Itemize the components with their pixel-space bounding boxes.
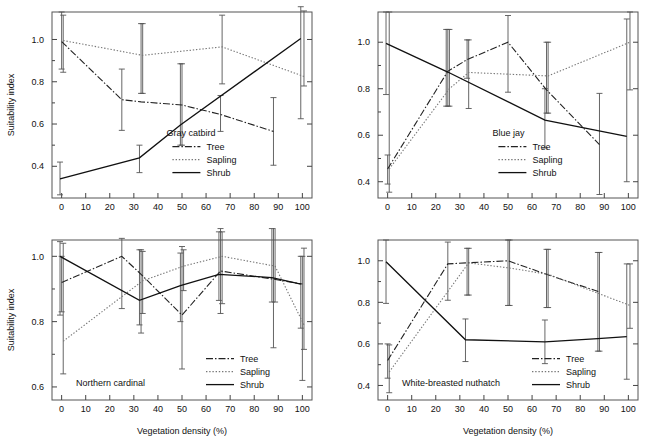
y-tick-label: 0.6 xyxy=(31,119,44,129)
x-tick-label: 90 xyxy=(599,404,609,414)
x-tick-label: 40 xyxy=(479,404,489,414)
error-bar xyxy=(383,240,389,303)
x-tick-label: 40 xyxy=(153,202,163,212)
x-tick-label: 30 xyxy=(455,404,465,414)
y-tick-label: 1.0 xyxy=(357,256,370,266)
x-tick-label: 50 xyxy=(503,404,513,414)
error-bar xyxy=(545,42,551,113)
error-bar xyxy=(443,29,449,106)
y-tick-label: 0.8 xyxy=(357,298,370,308)
panel-white-breasted-nuthatch: 0.40.60.81.00102030405060708090100Vegeta… xyxy=(326,228,652,447)
x-tick-label: 40 xyxy=(153,404,163,414)
x-tick-label: 20 xyxy=(431,404,441,414)
x-tick-label: 20 xyxy=(105,404,115,414)
error-bar xyxy=(446,29,452,106)
legend: TreeSaplingShrub xyxy=(172,142,236,178)
legend-label-shrub: Shrub xyxy=(240,380,264,390)
legend-label-shrub: Shrub xyxy=(532,168,556,178)
error-bar xyxy=(60,243,66,374)
x-tick-label: 80 xyxy=(249,202,259,212)
x-tick-label: 70 xyxy=(225,202,235,212)
y-tick-label: 0.4 xyxy=(357,177,370,187)
panel-title: White-breasted nuthatch xyxy=(402,378,500,388)
error-bar xyxy=(59,256,65,312)
y-tick-label: 0.6 xyxy=(31,382,44,392)
error-bar xyxy=(624,19,630,182)
x-tick-label: 20 xyxy=(105,202,115,212)
error-bar xyxy=(383,12,389,95)
error-bar xyxy=(627,264,633,328)
x-tick-label: 50 xyxy=(177,202,187,212)
legend-label-shrub: Shrub xyxy=(566,380,590,390)
error-bar xyxy=(138,250,144,333)
error-bar xyxy=(301,11,307,86)
error-bar xyxy=(385,344,391,378)
y-tick-label: 1.0 xyxy=(31,252,44,262)
x-tick-label: 70 xyxy=(551,202,561,212)
x-tick-label: 80 xyxy=(575,202,585,212)
error-bar xyxy=(57,242,63,315)
error-bar xyxy=(272,228,278,302)
error-bar xyxy=(119,69,125,130)
y-tick-label: 1.0 xyxy=(31,35,44,45)
x-tick-label: 80 xyxy=(249,404,259,414)
chart-bottom-right: 0.40.60.81.00102030405060708090100Vegeta… xyxy=(326,228,652,447)
error-bar xyxy=(544,249,550,307)
legend: TreeSaplingShrub xyxy=(498,142,562,178)
error-bar xyxy=(219,15,225,84)
x-tick-label: 90 xyxy=(273,404,283,414)
y-tick-label: 0.8 xyxy=(357,84,370,94)
x-tick-label: 90 xyxy=(599,202,609,212)
error-bar xyxy=(140,24,146,94)
y-tick-label: 0.6 xyxy=(357,339,370,349)
x-tick-label: 100 xyxy=(295,404,310,414)
x-tick-label: 30 xyxy=(455,202,465,212)
legend: TreeSaplingShrub xyxy=(206,354,270,390)
chart-top-right: 0.40.60.81.00102030405060708090100Blue j… xyxy=(326,0,652,228)
legend-label-sapling: Sapling xyxy=(566,367,596,377)
legend-label-shrub: Shrub xyxy=(206,168,230,178)
multi-panel-figure: 0.40.60.81.00102030405060708090100Suitab… xyxy=(0,0,652,447)
error-bar xyxy=(466,248,472,295)
x-tick-label: 40 xyxy=(479,202,489,212)
legend-label-sapling: Sapling xyxy=(206,155,236,165)
chart-bottom-left: 0.60.81.00102030405060708090100Suitabili… xyxy=(0,228,326,447)
series-shrub xyxy=(386,43,627,136)
error-bar xyxy=(270,98,276,166)
error-bar xyxy=(138,24,144,94)
chart-top-left: 0.40.60.81.00102030405060708090100Suitab… xyxy=(0,0,326,228)
x-tick-label: 0 xyxy=(385,404,390,414)
y-tick-label: 1.0 xyxy=(357,37,370,47)
x-axis-label: Vegetation density (%) xyxy=(137,426,227,436)
x-tick-label: 0 xyxy=(385,202,390,212)
y-tick-label: 0.8 xyxy=(31,77,44,87)
series-shrub xyxy=(386,262,627,342)
panel-northern-cardinal: 0.60.81.00102030405060708090100Suitabili… xyxy=(0,228,326,447)
x-tick-label: 20 xyxy=(431,202,441,212)
panel-blue-jay: 0.40.60.81.00102030405060708090100Blue j… xyxy=(326,0,652,228)
error-bar xyxy=(386,12,392,192)
x-tick-label: 70 xyxy=(551,404,561,414)
panel-title: Blue jay xyxy=(492,128,525,138)
x-tick-label: 10 xyxy=(81,202,91,212)
error-bar xyxy=(595,252,601,351)
y-tick-label: 0.6 xyxy=(357,130,370,140)
error-bar xyxy=(505,15,511,92)
error-bar xyxy=(298,7,304,119)
series-tree xyxy=(62,42,274,132)
x-tick-label: 10 xyxy=(407,404,417,414)
error-bar xyxy=(545,249,551,307)
error-bar xyxy=(216,232,222,301)
legend-label-tree: Tree xyxy=(532,142,550,152)
x-tick-label: 70 xyxy=(225,404,235,414)
error-bar xyxy=(301,248,307,349)
x-tick-label: 60 xyxy=(527,404,537,414)
x-tick-label: 100 xyxy=(295,202,310,212)
y-axis-label: Suitability index xyxy=(6,73,16,136)
error-bar xyxy=(596,252,602,351)
x-tick-label: 80 xyxy=(575,404,585,414)
legend-label-tree: Tree xyxy=(206,142,224,152)
x-tick-label: 10 xyxy=(407,202,417,212)
error-bar xyxy=(464,248,470,295)
x-tick-label: 60 xyxy=(201,202,211,212)
